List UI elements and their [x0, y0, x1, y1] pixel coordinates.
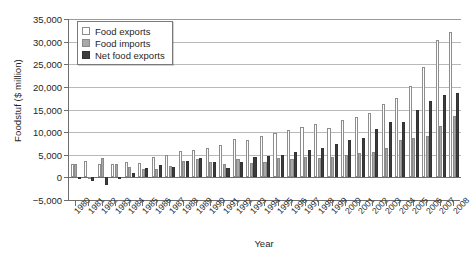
bar-group — [434, 19, 448, 200]
bar — [101, 158, 104, 177]
bar-group — [258, 19, 272, 200]
bar — [294, 152, 297, 177]
bar — [429, 101, 432, 177]
bar — [213, 162, 216, 177]
legend-item: Food imports — [82, 37, 165, 49]
bar-group — [285, 19, 299, 200]
bar — [132, 173, 135, 178]
legend-swatch-icon — [82, 51, 90, 59]
bar — [172, 167, 175, 178]
bar-group — [447, 19, 461, 200]
legend-item: Food exports — [82, 25, 165, 37]
bar — [335, 144, 338, 177]
y-axis-tick-label: 5,000 — [38, 149, 62, 160]
bar — [443, 95, 446, 177]
bar-group — [231, 19, 245, 200]
bar — [375, 129, 378, 177]
bar-group — [272, 19, 286, 200]
bar-group — [299, 19, 313, 200]
bar-group — [218, 19, 232, 200]
bar — [159, 165, 162, 178]
bar — [78, 177, 81, 179]
bar-group — [312, 19, 326, 200]
bar — [118, 177, 121, 179]
bar-group — [353, 19, 367, 200]
bar — [321, 148, 324, 178]
legend-item-label: Food exports — [95, 26, 150, 37]
legend-swatch-icon — [82, 27, 90, 35]
y-axis-tick-label: −5,000 — [33, 195, 62, 206]
bar — [416, 110, 419, 177]
bar — [115, 164, 118, 177]
legend-item-label: Food imports — [95, 38, 150, 49]
y-axis-tick-label: 35,000 — [33, 14, 62, 25]
bar-group — [366, 19, 380, 200]
legend-item: Net food exports — [82, 49, 165, 61]
y-axis-tick-label: 10,000 — [33, 127, 62, 138]
chart-legend: Food exportsFood importsNet food exports — [77, 21, 173, 65]
bar-group — [420, 19, 434, 200]
bar — [308, 150, 311, 178]
y-axis-tick-label: 30,000 — [33, 36, 62, 47]
y-axis-tick-label: 25,000 — [33, 59, 62, 70]
y-axis-title: Foodstuf ($ million) — [12, 21, 23, 181]
bar-group — [407, 19, 421, 200]
x-axis: 1980198119821983198419851986198719881989… — [68, 200, 460, 201]
bar — [456, 93, 459, 178]
bar-group — [245, 19, 259, 200]
y-axis-tick-label: 20,000 — [33, 81, 62, 92]
bar-group — [339, 19, 353, 200]
bar — [348, 140, 351, 177]
bar — [253, 157, 256, 177]
bar — [91, 177, 94, 181]
bar — [84, 161, 87, 177]
bar — [105, 177, 108, 184]
bar-group — [393, 19, 407, 200]
y-axis-tick-label: 15,000 — [33, 104, 62, 115]
bar — [226, 168, 229, 177]
bar-group — [177, 19, 191, 200]
bar — [389, 122, 392, 177]
legend-item-label: Net food exports — [95, 50, 165, 61]
bar — [281, 155, 284, 178]
bar-group — [380, 19, 394, 200]
bar — [186, 161, 189, 177]
bar — [402, 122, 405, 178]
bar — [145, 168, 148, 177]
bar — [199, 158, 202, 177]
y-axis-tick-label: 0 — [57, 172, 62, 183]
bar-group — [326, 19, 340, 200]
legend-swatch-icon — [82, 39, 90, 47]
bar — [362, 138, 365, 177]
bar — [267, 156, 270, 178]
bar-group — [191, 19, 205, 200]
bar-group — [204, 19, 218, 200]
bar — [74, 164, 77, 177]
bar — [240, 162, 243, 177]
x-axis-title: Year — [68, 238, 460, 249]
